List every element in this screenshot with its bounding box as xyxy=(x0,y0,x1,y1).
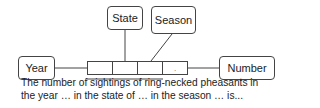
caption-line-2: the year … in the state of … in the seas… xyxy=(21,89,283,102)
number-label: Number xyxy=(227,62,266,74)
tuple-strip: . xyxy=(87,61,188,75)
state-node: State xyxy=(107,6,143,30)
caption: The number of sightings of ring-necked p… xyxy=(21,76,283,102)
caption-line-1: The number of sightings of ring-necked p… xyxy=(21,76,283,89)
state-label: State xyxy=(112,12,138,24)
season-label: Season xyxy=(155,14,192,26)
tuple-cell-season xyxy=(138,62,163,74)
tuple-cell-number: . xyxy=(163,62,187,74)
tuple-cell-state xyxy=(113,62,138,74)
year-label: Year xyxy=(25,62,47,74)
season-node: Season xyxy=(151,6,196,34)
tuple-cell-year xyxy=(88,62,113,74)
